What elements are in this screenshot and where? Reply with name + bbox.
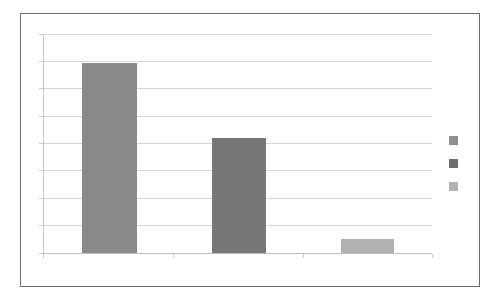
y-axis-tick <box>39 61 43 62</box>
y-axis-line <box>43 34 44 254</box>
bar-3[interactable] <box>341 239 394 253</box>
legend-item-2[interactable] <box>446 155 472 177</box>
legend-swatch-icon <box>449 159 458 168</box>
x-axis-line <box>43 253 432 254</box>
legend-item-3[interactable] <box>446 178 472 200</box>
bar-2[interactable] <box>212 138 266 253</box>
chart-frame <box>20 13 480 287</box>
gridline <box>43 61 432 62</box>
y-axis-tick <box>39 143 43 144</box>
y-axis-tick <box>39 88 43 89</box>
bar-1[interactable] <box>82 63 137 253</box>
y-axis-tick <box>39 116 43 117</box>
y-axis-tick <box>39 225 43 226</box>
bar-chart-plot-area <box>21 14 481 288</box>
x-axis-tick <box>432 254 433 258</box>
x-axis-tick <box>173 254 174 258</box>
legend-swatch-icon <box>449 182 458 191</box>
y-axis-tick <box>39 34 43 35</box>
legend-item-1[interactable] <box>446 132 472 154</box>
y-axis-tick <box>39 170 43 171</box>
screenshot-root <box>0 0 499 304</box>
y-axis-tick <box>39 198 43 199</box>
legend-swatch-icon <box>449 136 458 145</box>
x-axis-tick <box>43 254 44 258</box>
x-axis-tick <box>303 254 304 258</box>
gridline <box>43 34 432 35</box>
